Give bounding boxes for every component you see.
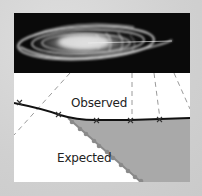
rotation-curve-plot bbox=[14, 73, 190, 182]
expected-label: Expected bbox=[57, 151, 111, 165]
observed-label: Observed bbox=[71, 96, 127, 110]
rotation-curve-chart bbox=[14, 73, 190, 182]
galaxy-image-panel bbox=[14, 13, 190, 73]
spiral-galaxy-icon bbox=[14, 13, 190, 73]
